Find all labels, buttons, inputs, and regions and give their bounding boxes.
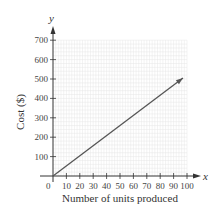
y-tick-label: 300 [35, 113, 49, 123]
x-tick-label: 20 [75, 181, 85, 191]
x-tick-label: 50 [116, 181, 126, 191]
y-axis-title: Cost ($) [14, 94, 27, 130]
grid [53, 40, 187, 176]
x-axis-arrow-icon [193, 174, 201, 179]
cost-line [53, 78, 183, 176]
x-tick-label: 90 [169, 181, 179, 191]
data-series [53, 78, 183, 176]
x-axis-title: Number of units produced [62, 192, 178, 204]
y-axis-variable: y [48, 12, 54, 24]
y-tick-label: 400 [35, 93, 49, 103]
y-tick-label: 500 [35, 74, 49, 84]
x-tick-label: 60 [129, 181, 139, 191]
y-tick-label: 200 [35, 132, 49, 142]
origin-label: 0 [46, 181, 51, 191]
y-tick-label: 700 [35, 35, 49, 45]
x-tick-label: 70 [142, 181, 152, 191]
cost-chart: 102030405060708090100 100200300400500600… [0, 0, 222, 213]
y-tick-label: 600 [35, 55, 49, 65]
y-axis-arrow-icon [51, 26, 56, 34]
x-tick-label: 40 [102, 181, 112, 191]
x-tick-label: 100 [180, 181, 194, 191]
axes [40, 26, 201, 182]
x-tick-label: 10 [62, 181, 72, 191]
x-axis-variable: x [202, 170, 208, 182]
x-tick-label: 80 [156, 181, 166, 191]
x-tick-label: 30 [89, 181, 99, 191]
y-tick-label: 100 [35, 152, 49, 162]
